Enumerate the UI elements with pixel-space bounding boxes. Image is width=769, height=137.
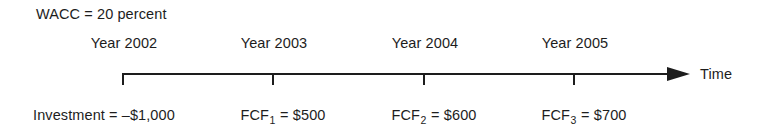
fcf1-subscript: 1 [269,114,276,126]
fcf2-value: = $600 [427,107,476,123]
fcf1-value: = $500 [276,107,325,123]
arrow-right-icon [667,67,690,81]
tick-mark-2005 [573,73,575,85]
fcf2-base: FCF [392,107,421,123]
year-label-2002: Year 2002 [91,36,157,51]
wacc-annotation: WACC = 20 percent [36,7,167,22]
cash-flow-label-fcf3: FCF3 = $700 [542,108,627,123]
year-label-2003: Year 2003 [241,36,307,51]
tick-mark-2003 [272,73,274,85]
cash-flow-label-fcf2: FCF2 = $600 [392,108,477,123]
cash-flow-label-fcf1: FCF1 = $500 [241,108,326,123]
timeline-axis [122,73,683,75]
tick-mark-2002 [122,73,124,85]
fcf3-subscript: 3 [570,114,577,126]
fcf2-subscript: 2 [420,114,427,126]
time-axis-label: Time [700,67,732,82]
fcf3-value: = $700 [577,107,626,123]
fcf1-base: FCF [241,107,270,123]
cash-flow-label-investment: Investment = –$1,000 [33,108,175,123]
year-label-2004: Year 2004 [392,36,458,51]
cash-flow-timeline-figure: WACC = 20 percent Year 2002 Year 2003 Ye… [0,0,769,137]
tick-mark-2004 [423,73,425,85]
year-label-2005: Year 2005 [542,36,608,51]
fcf3-base: FCF [542,107,571,123]
